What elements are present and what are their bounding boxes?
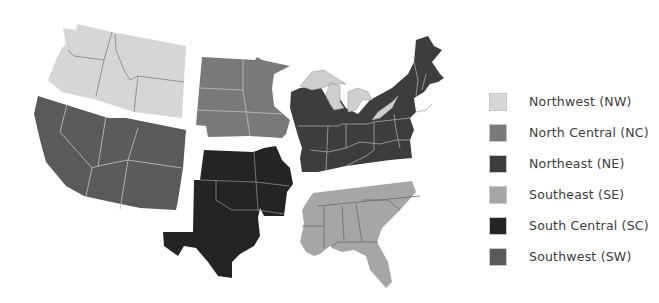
- legend-item-northeast[interactable]: Northeast (NE): [489, 148, 649, 179]
- legend-label: North Central (NC): [529, 125, 649, 140]
- legend-item-southeast[interactable]: Southeast (SE): [489, 179, 649, 210]
- region-north-central[interactable]: [196, 57, 290, 138]
- region-northeast[interactable]: [290, 36, 444, 172]
- legend-label: Southeast (SE): [529, 187, 624, 202]
- legend-item-north-central[interactable]: North Central (NC): [489, 117, 649, 148]
- map-legend: Northwest (NW) North Central (NC) Northe…: [489, 86, 649, 272]
- legend-swatch: [489, 155, 507, 173]
- legend-swatch: [489, 93, 507, 111]
- legend-swatch: [489, 217, 507, 235]
- region-northwest-shape: [48, 24, 186, 118]
- legend-label: Southwest (SW): [529, 249, 631, 264]
- region-southeast-shape: [300, 181, 416, 288]
- legend-item-northwest[interactable]: Northwest (NW): [489, 86, 649, 117]
- region-northwest[interactable]: [48, 24, 186, 118]
- legend-swatch: [489, 124, 507, 142]
- us-regions-map: [0, 0, 480, 303]
- region-southeast[interactable]: [300, 181, 420, 288]
- legend-swatch: [489, 186, 507, 204]
- legend-label: Northeast (NE): [529, 156, 625, 171]
- legend-swatch: [489, 248, 507, 266]
- legend-item-south-central[interactable]: South Central (SC): [489, 210, 649, 241]
- region-northeast-shape: [290, 36, 444, 172]
- legend-label: South Central (SC): [529, 218, 649, 233]
- legend-item-southwest[interactable]: Southwest (SW): [489, 241, 649, 272]
- legend-label: Northwest (NW): [529, 94, 632, 109]
